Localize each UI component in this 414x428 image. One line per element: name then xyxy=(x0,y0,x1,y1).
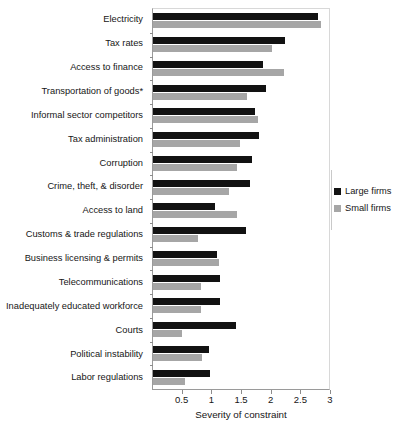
y-axis-tick xyxy=(150,104,153,105)
bar-small-firms xyxy=(153,354,202,361)
y-axis-tick xyxy=(150,128,153,129)
bar-group xyxy=(153,33,329,57)
bar-large-firms xyxy=(153,156,252,163)
bar-group xyxy=(153,152,329,176)
x-axis-tick-label: 1.5 xyxy=(234,394,247,405)
y-axis-tick xyxy=(150,318,153,319)
category-label: Courts xyxy=(0,318,148,342)
category-label: Transportation of goods* xyxy=(0,80,148,104)
category-label: Telecommunications xyxy=(0,271,148,295)
y-axis-tick xyxy=(150,247,153,248)
bar-small-firms xyxy=(153,21,321,28)
bar-large-firms xyxy=(153,322,236,329)
legend-swatch-icon xyxy=(334,188,341,195)
bar-small-firms xyxy=(153,378,185,385)
category-label: Labor regulations xyxy=(0,366,148,390)
bar-group xyxy=(153,104,329,128)
x-axis-tick-label: 2 xyxy=(268,394,273,405)
chart-legend: Large firmsSmall firms xyxy=(334,186,412,220)
category-label: Political instability xyxy=(0,342,148,366)
bar-small-firms xyxy=(153,330,182,337)
bar-group xyxy=(153,223,329,247)
bar-small-firms xyxy=(153,259,219,266)
bar-large-firms xyxy=(153,37,285,44)
legend-swatch-icon xyxy=(334,205,341,212)
x-axis-tick-label: 1 xyxy=(209,394,214,405)
category-label: Inadequately educated workforce xyxy=(0,295,148,319)
bar-small-firms xyxy=(153,93,247,100)
category-label: Tax rates xyxy=(0,32,148,56)
y-axis-tick xyxy=(150,152,153,153)
category-label: Corruption xyxy=(0,151,148,175)
bar-large-firms xyxy=(153,298,220,305)
bar-small-firms xyxy=(153,140,240,147)
bar-large-firms xyxy=(153,13,318,20)
legend-divider xyxy=(331,170,332,230)
bar-small-firms xyxy=(153,211,237,218)
bar-small-firms xyxy=(153,116,258,123)
bar-small-firms xyxy=(153,235,198,242)
y-axis-tick xyxy=(150,223,153,224)
y-axis-tick xyxy=(150,342,153,343)
x-axis-tick-labels: 0.511.522.53 xyxy=(152,394,330,408)
bar-group xyxy=(153,80,329,104)
category-axis-labels: ElectricityTax ratesAccess to financeTra… xyxy=(0,8,148,390)
bar-group xyxy=(153,318,329,342)
legend-item: Large firms xyxy=(334,186,412,196)
category-label: Tax administration xyxy=(0,127,148,151)
bar-group xyxy=(153,57,329,81)
bar-group xyxy=(153,9,329,33)
bar-group xyxy=(153,247,329,271)
bar-large-firms xyxy=(153,203,215,210)
x-axis-tick-label: 0.5 xyxy=(175,394,188,405)
y-axis-tick xyxy=(150,270,153,271)
bar-group xyxy=(153,294,329,318)
bar-large-firms xyxy=(153,370,210,377)
plot-area xyxy=(152,8,330,390)
bar-large-firms xyxy=(153,132,259,139)
bar-large-firms xyxy=(153,227,246,234)
category-label: Electricity xyxy=(0,8,148,32)
bar-small-firms xyxy=(153,45,272,52)
bar-large-firms xyxy=(153,85,266,92)
bar-small-firms xyxy=(153,306,201,313)
bar-small-firms xyxy=(153,69,284,76)
bar-group xyxy=(153,270,329,294)
category-label: Business licensing & permits xyxy=(0,247,148,271)
x-axis-tick-label: 3 xyxy=(327,394,332,405)
bar-large-firms xyxy=(153,275,220,282)
y-axis-tick xyxy=(150,294,153,295)
y-axis-tick xyxy=(150,57,153,58)
category-label: Customs & trade regulations xyxy=(0,223,148,247)
bar-small-firms xyxy=(153,283,201,290)
bar-large-firms xyxy=(153,346,209,353)
category-label: Crime, theft, & disorder xyxy=(0,175,148,199)
bar-large-firms xyxy=(153,108,255,115)
legend-label: Small firms xyxy=(345,203,391,213)
legend-item: Small firms xyxy=(334,203,412,213)
y-axis-tick xyxy=(150,33,153,34)
category-label: Informal sector competitors xyxy=(0,104,148,128)
y-axis-tick xyxy=(150,199,153,200)
bar-large-firms xyxy=(153,180,250,187)
category-label: Access to finance xyxy=(0,56,148,80)
bar-group xyxy=(153,365,329,389)
bar-chart: ElectricityTax ratesAccess to financeTra… xyxy=(0,0,414,428)
bar-small-firms xyxy=(153,188,229,195)
x-axis-tick-label: 2.5 xyxy=(294,394,307,405)
legend-label: Large firms xyxy=(345,186,392,196)
y-axis-tick xyxy=(150,365,153,366)
bar-large-firms xyxy=(153,251,217,258)
bar-large-firms xyxy=(153,61,263,68)
y-axis-tick xyxy=(150,80,153,81)
x-axis-title: Severity of constraint xyxy=(152,409,330,420)
y-axis-tick xyxy=(150,175,153,176)
bar-group xyxy=(153,175,329,199)
bar-group xyxy=(153,199,329,223)
bar-groups xyxy=(153,9,329,389)
bar-group xyxy=(153,128,329,152)
bar-small-firms xyxy=(153,164,237,171)
category-label: Access to land xyxy=(0,199,148,223)
bar-group xyxy=(153,342,329,366)
